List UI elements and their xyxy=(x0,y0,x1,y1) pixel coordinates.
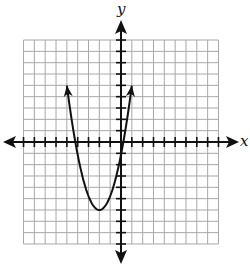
y-axis-label: y xyxy=(117,2,125,17)
axes xyxy=(3,20,239,264)
coordinate-plane xyxy=(0,0,250,270)
x-axis-label: x xyxy=(240,134,248,149)
